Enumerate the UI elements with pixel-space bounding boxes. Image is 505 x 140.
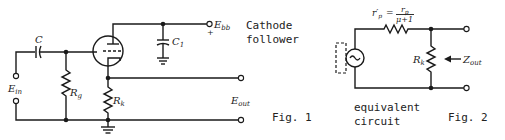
label-c: C bbox=[35, 34, 43, 45]
ground-c1-icon bbox=[157, 58, 169, 64]
label-zout: Zout bbox=[462, 54, 482, 67]
output-terminal-top bbox=[238, 75, 243, 80]
rp-resistor-icon bbox=[355, 25, 464, 49]
fig1-title-line2: follower bbox=[246, 33, 299, 46]
dashed-source-box bbox=[336, 43, 346, 73]
arrow-left-icon bbox=[444, 56, 461, 63]
label-eout: Eout bbox=[230, 95, 250, 108]
fig2-rk-resistor-icon bbox=[427, 29, 435, 88]
fig2-subtitle-line2: circuit bbox=[354, 115, 400, 128]
label-c1: C1 bbox=[172, 36, 184, 49]
grid-resistor-icon bbox=[62, 52, 70, 120]
ground-rail bbox=[16, 104, 241, 121]
label-ein: Ein bbox=[7, 83, 23, 96]
output-terminal-bottom bbox=[238, 117, 243, 122]
label-rp-prime: r′p bbox=[372, 8, 382, 20]
fig2-terminal-bottom bbox=[464, 85, 469, 90]
fig2-bottom-wire bbox=[355, 67, 464, 88]
ground-icon bbox=[101, 120, 115, 133]
fig1-cathode-follower: C C1 Ebb + Rg Rk Ein Eout Cathode follow… bbox=[7, 19, 312, 133]
triode-tube-icon bbox=[93, 36, 123, 66]
label-denominator: μ+1 bbox=[396, 15, 413, 24]
capacitor-c1-icon bbox=[157, 24, 169, 58]
label-equals: = bbox=[386, 8, 394, 18]
fig1-caption: Fig. 1 bbox=[272, 111, 312, 124]
circuit-diagrams: C C1 Ebb + Rg Rk Ein Eout Cathode follow… bbox=[0, 0, 505, 140]
input-terminal-bottom bbox=[13, 98, 18, 103]
supply-terminal bbox=[207, 21, 212, 26]
label-rk: Rk bbox=[112, 95, 125, 108]
label-supply-plus: + bbox=[207, 28, 214, 37]
label-rg: Rg bbox=[69, 87, 83, 100]
cathode-wire bbox=[108, 66, 239, 78]
rail-node-1 bbox=[64, 118, 69, 123]
fig2-subtitle-line1: equivalent bbox=[354, 101, 420, 114]
input-terminal-top bbox=[13, 73, 18, 78]
input-wire bbox=[16, 52, 35, 74]
fig2-terminal-top bbox=[464, 26, 469, 31]
fig2-equivalent-circuit: r′p = rp μ+1 Rk Zout equivalent circuit … bbox=[336, 5, 488, 128]
ac-source-icon bbox=[346, 49, 364, 67]
fig2-caption: Fig. 2 bbox=[448, 111, 488, 124]
fig1-title-line1: Cathode bbox=[246, 19, 292, 32]
fig2-label-rk: Rk bbox=[412, 54, 425, 67]
plate-wire bbox=[113, 24, 207, 36]
label-ebb: Ebb bbox=[213, 19, 231, 32]
cathode-resistor-icon bbox=[104, 78, 112, 120]
